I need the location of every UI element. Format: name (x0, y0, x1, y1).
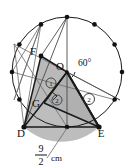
geometry-figure: 1 2 2 F O G D E 60° 9 2 cm (0, 0, 134, 167)
point-label-f: F (30, 45, 36, 57)
point-label-d: D (17, 127, 25, 139)
circle-point (65, 15, 70, 20)
measurement-label: 9 2 cm (35, 143, 62, 167)
circle-point (120, 70, 125, 75)
circle-point (10, 70, 15, 75)
fraction-denominator: 2 (39, 156, 44, 167)
circle-point (92, 22, 97, 27)
point-label-g: G (32, 97, 40, 109)
circle-point (39, 22, 44, 27)
circle-point (112, 97, 117, 102)
vertex-dot-o (65, 70, 69, 74)
region-label-2-inner: 2 (55, 97, 59, 105)
point-label-e: E (98, 127, 105, 139)
region-label-2-outer: 2 (87, 96, 91, 104)
point-label-o: O (56, 60, 64, 72)
fraction-numerator: 9 (39, 143, 44, 154)
circle-point (17, 97, 22, 102)
angle-label-60: 60° (78, 58, 92, 68)
circle-point (17, 42, 22, 47)
measurement-unit: cm (51, 153, 62, 163)
circle-point (112, 42, 117, 47)
region-label-1: 1 (49, 80, 53, 88)
geometry-canvas: 1 2 2 F O G D E 60° 9 2 cm (0, 0, 134, 167)
vertex-dot-f (39, 54, 44, 59)
